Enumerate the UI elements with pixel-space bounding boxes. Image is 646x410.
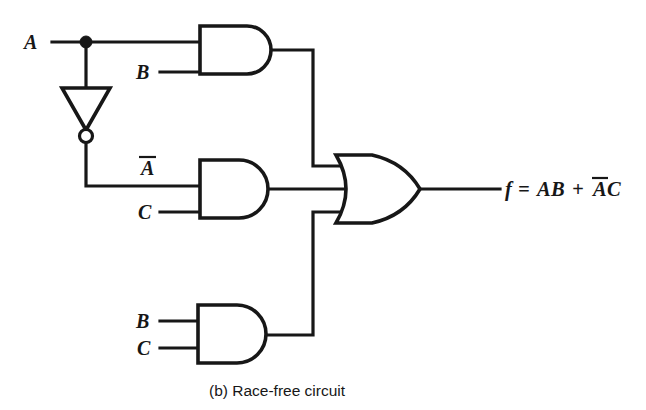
output-expression-term1: AB — [535, 178, 565, 200]
and-gate-top — [200, 26, 271, 74]
label-a-bar-mid: A — [139, 157, 154, 179]
label-c-mid: C — [138, 201, 152, 223]
output-expression-term2-rest: C — [607, 178, 621, 200]
and-gate-middle — [200, 160, 268, 218]
and-gate-bottom — [198, 305, 266, 363]
wire-and-top-to-or — [272, 50, 344, 166]
wire-and-bottom-to-or — [266, 212, 344, 335]
output-expression-term2-negated: A — [591, 178, 607, 200]
inverter-bubble-icon — [80, 130, 93, 143]
label-b-top: B — [135, 61, 149, 83]
race-free-circuit-figure: A B A C B C f = AB + A C (b) Race-free c… — [0, 0, 646, 410]
label-b-bottom: B — [135, 310, 149, 332]
or-gate-output — [336, 155, 420, 223]
output-expression-equals: = — [518, 178, 530, 200]
label-c-bottom: C — [137, 337, 151, 359]
figure-caption: (b) Race-free circuit — [209, 382, 346, 399]
label-a-top: A — [22, 31, 37, 53]
junction-dot-a — [80, 36, 92, 48]
not-gate-inverter — [62, 88, 110, 130]
output-expression-plus: + — [572, 178, 584, 200]
output-expression-lhs: f — [505, 178, 514, 201]
